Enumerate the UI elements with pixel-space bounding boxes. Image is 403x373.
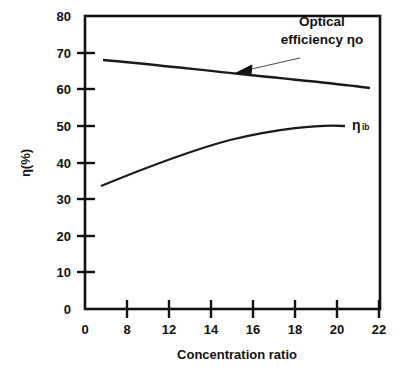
annotation-line-2: efficiency ηo (281, 32, 364, 47)
chart-figure: 80 70 60 50 40 30 20 10 0 0 8 12 14 16 (0, 0, 403, 373)
x-tick-label-8: 8 (123, 322, 130, 337)
y-tick-label-10: 10 (57, 265, 71, 280)
series-label-eta-sub: ib (362, 122, 370, 132)
line-chart: 80 70 60 50 40 30 20 10 0 0 8 12 14 16 (0, 0, 403, 373)
y-tick-label-0: 0 (64, 302, 71, 317)
x-tick-label-16: 16 (246, 322, 260, 337)
y-tick-label-50: 50 (57, 119, 71, 134)
x-tick-label-22: 22 (372, 322, 386, 337)
x-tick-label-14: 14 (204, 322, 219, 337)
y-tick-label-70: 70 (57, 46, 71, 61)
x-axis-tick-labels: 0 8 12 14 16 18 20 22 (81, 322, 386, 337)
y-tick-label-60: 60 (57, 82, 71, 97)
y-axis-tick-labels: 80 70 60 50 40 30 20 10 0 (57, 9, 71, 317)
y-axis-title: η(%) (18, 149, 33, 177)
y-tick-label-20: 20 (57, 229, 71, 244)
x-axis-title: Concentration ratio (177, 347, 297, 362)
x-tick-label-12: 12 (162, 322, 176, 337)
y-tick-label-30: 30 (57, 192, 71, 207)
x-tick-label-0: 0 (81, 322, 88, 337)
x-tick-label-18: 18 (288, 322, 302, 337)
plot-frame (85, 16, 380, 309)
y-tick-label-40: 40 (57, 156, 71, 171)
annotation-line-1: Optical (299, 14, 345, 29)
x-tick-label-20: 20 (330, 322, 344, 337)
y-tick-label-80: 80 (57, 9, 71, 24)
series-label-eta-main: η (352, 117, 361, 133)
